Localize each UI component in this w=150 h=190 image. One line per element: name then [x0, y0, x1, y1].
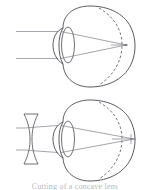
- anterior-chamber-top: [59, 28, 63, 64]
- lens-internal-ray-upper: [25, 127, 37, 128]
- optics-figure: Cutting of a concave lens: [0, 0, 150, 190]
- eyeball-outline-bottom: [63, 100, 135, 181]
- lens-internal-ray-lower: [25, 150, 37, 151]
- crystalline-lens-top: [62, 27, 75, 63]
- refracted-ray-upper-top: [61, 32, 126, 46]
- diverged-ray-upper: [37, 126, 58, 128]
- focal-point-top: [125, 44, 127, 46]
- panel-top-myopic-uncorrected: [16, 6, 135, 87]
- concave-corrective-lens: [24, 114, 38, 164]
- figure-caption-clip: Cutting of a concave lens: [0, 182, 150, 190]
- refracted-ray-lower-bottom: [61, 139, 134, 153]
- figure-caption: Cutting of a concave lens: [0, 182, 150, 190]
- panel-bottom-myopic-corrected: [16, 100, 136, 181]
- refracted-ray-upper-bottom: [61, 126, 134, 140]
- diverged-ray-lower: [37, 151, 58, 153]
- refracted-ray-lower-top: [61, 45, 126, 59]
- eye-diagram-svg: [0, 0, 150, 190]
- eyeball-outline-top: [63, 6, 135, 87]
- anterior-chamber-bottom: [59, 122, 63, 158]
- crystalline-lens-bottom: [62, 121, 75, 157]
- normal-retina-dashed-arc-bottom: [99, 102, 122, 179]
